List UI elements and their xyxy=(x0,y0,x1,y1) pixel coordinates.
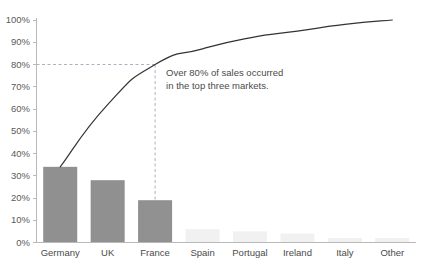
y-tick-label: 30% xyxy=(11,170,31,181)
x-axis: GermanyUKFranceSpainPortugalIrelandItaly… xyxy=(37,243,417,258)
bar-ireland xyxy=(280,234,314,243)
y-tick-label: 90% xyxy=(11,36,31,47)
x-tick-label-other: Other xyxy=(380,247,404,258)
bar-rect xyxy=(186,229,220,242)
y-tick-label: 10% xyxy=(11,214,31,225)
bar-rect xyxy=(375,238,409,242)
y-tick-label: 100% xyxy=(6,14,31,25)
x-tick-label-portugal: Portugal xyxy=(232,247,267,258)
pareto-chart: 0%10%20%30%40%50%60%70%80%90%100% German… xyxy=(0,0,428,273)
bar-rect xyxy=(328,238,362,242)
chart-annotation: Over 80% of sales occurredin the top thr… xyxy=(166,67,283,91)
x-tick-label-spain: Spain xyxy=(190,247,214,258)
bar-series xyxy=(43,167,409,243)
x-tick-label-germany: Germany xyxy=(41,247,80,258)
x-tick-label-france: France xyxy=(140,247,170,258)
bar-uk xyxy=(91,180,125,242)
bar-portugal xyxy=(233,231,267,242)
y-tick-label: 0% xyxy=(16,237,30,248)
y-tick-label: 50% xyxy=(11,125,31,136)
bar-italy xyxy=(328,238,362,242)
cumulative-line-series xyxy=(60,20,392,167)
x-tick-label-ireland: Ireland xyxy=(283,247,312,258)
chart-canvas: 0%10%20%30%40%50%60%70%80%90%100% German… xyxy=(0,0,428,273)
bar-germany xyxy=(43,167,77,243)
cumulative-curve-path xyxy=(60,20,392,167)
bar-rect xyxy=(91,180,125,242)
bar-spain xyxy=(186,229,220,242)
x-tick-label-uk: UK xyxy=(101,247,115,258)
annotation-line-1: Over 80% of sales occurred xyxy=(166,67,283,78)
y-tick-label: 80% xyxy=(11,59,31,70)
bar-rect xyxy=(43,167,77,243)
y-tick-label: 20% xyxy=(11,192,31,203)
bar-other xyxy=(375,238,409,242)
bar-france xyxy=(138,200,172,242)
bar-rect xyxy=(233,231,267,242)
x-tick-label-italy: Italy xyxy=(336,247,354,258)
bar-rect xyxy=(280,234,314,243)
y-tick-label: 40% xyxy=(11,148,31,159)
y-axis: 0%10%20%30%40%50%60%70%80%90%100% xyxy=(6,14,37,248)
y-tick-label: 60% xyxy=(11,103,31,114)
annotation-line-2: in the top three markets. xyxy=(166,80,268,91)
bar-rect xyxy=(138,200,172,242)
y-tick-label: 70% xyxy=(11,81,31,92)
